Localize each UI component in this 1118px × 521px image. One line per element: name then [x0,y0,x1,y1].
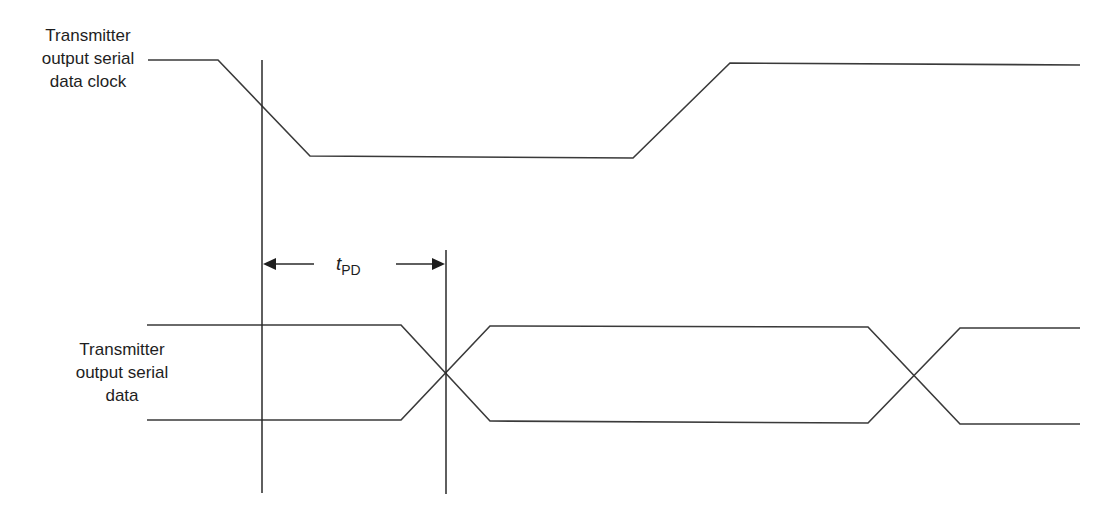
data-label-line-1: Transmitter [62,338,182,361]
tpd-subscript: PD [341,262,360,278]
clock-signal-label: Transmitter output serial data clock [28,24,148,93]
data-label-line-2: output serial [62,361,182,384]
clock-label-line-3: data clock [28,70,148,93]
data-signal-label: Transmitter output serial data [62,338,182,407]
clock-label-line-1: Transmitter [28,24,148,47]
clock-waveform [148,60,1080,158]
data-waveform-lower [147,326,1080,424]
tpd-label: tPD [336,253,361,275]
waveform-canvas [0,0,1118,521]
timing-diagram: Transmitter output serial data clock Tra… [0,0,1118,521]
arrowhead-right-icon [432,258,445,270]
data-waveform-upper [147,325,1080,423]
clock-label-line-2: output serial [28,47,148,70]
arrowhead-left-icon [263,258,276,270]
data-label-line-3: data [62,384,182,407]
